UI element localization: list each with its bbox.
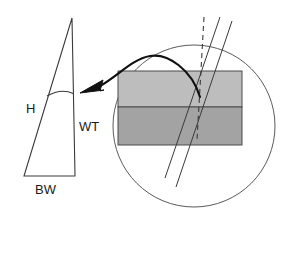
- upper-lamellar-band: [118, 71, 242, 107]
- lower-lamellar-band: [118, 107, 242, 145]
- figure-root: H WT BW: [0, 0, 287, 253]
- label-wall-thickness: WT: [79, 119, 99, 134]
- diagram-canvas: H WT BW: [0, 0, 287, 253]
- label-base-width: BW: [35, 182, 57, 197]
- label-height: H: [26, 101, 35, 116]
